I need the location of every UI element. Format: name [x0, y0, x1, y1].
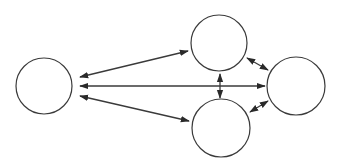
edge-top-left [80, 51, 188, 77]
edge-top-right [247, 58, 268, 70]
node-left [16, 58, 72, 114]
edge-bottom-right [250, 101, 268, 112]
network-diagram [0, 0, 340, 168]
node-right [267, 57, 325, 115]
edge-bottom-left [80, 96, 189, 121]
node-bottom [192, 99, 250, 157]
diagram-canvas [0, 0, 340, 168]
node-top [191, 15, 247, 71]
